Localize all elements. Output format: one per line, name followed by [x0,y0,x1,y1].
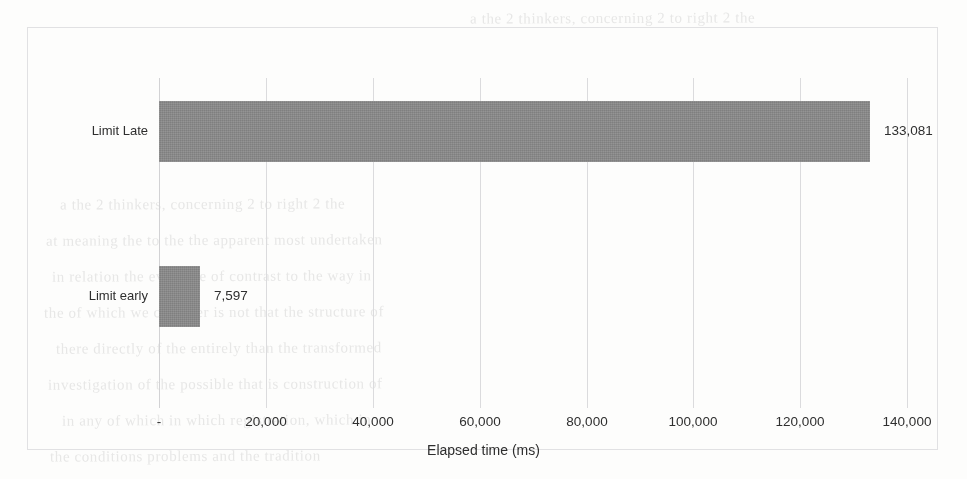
plot-area: 133,081 7,597 [159,78,907,408]
xtick-label-20000: 20,000 [245,414,286,429]
bar-value-limit-early: 7,597 [214,288,248,303]
x-axis-title: Elapsed time (ms) [28,442,939,458]
bar-limit-late[interactable] [159,101,870,162]
scan-surface: a the 2 thinkers, concerning 2 to right … [0,0,967,479]
xtick-label-40000: 40,000 [352,414,393,429]
xtick-label-0: - [157,414,162,429]
xtick-label-80000: 80,000 [566,414,607,429]
scanned-page: a the 2 thinkers, concerning 2 to right … [0,0,967,479]
category-label-limit-early: Limit early [28,288,148,303]
bar-value-limit-late: 133,081 [884,123,933,138]
bar-limit-early[interactable] [159,266,200,327]
bleed-text-line: a the 2 thinkers, concerning 2 to right … [470,9,755,27]
xtick-label-140000: 140,000 [883,414,932,429]
xtick-label-120000: 120,000 [776,414,825,429]
xtick-label-100000: 100,000 [669,414,718,429]
chart-frame: 133,081 7,597 Limit Late Limit early - 2… [27,27,938,450]
category-label-limit-late: Limit Late [28,123,148,138]
xtick-label-60000: 60,000 [459,414,500,429]
